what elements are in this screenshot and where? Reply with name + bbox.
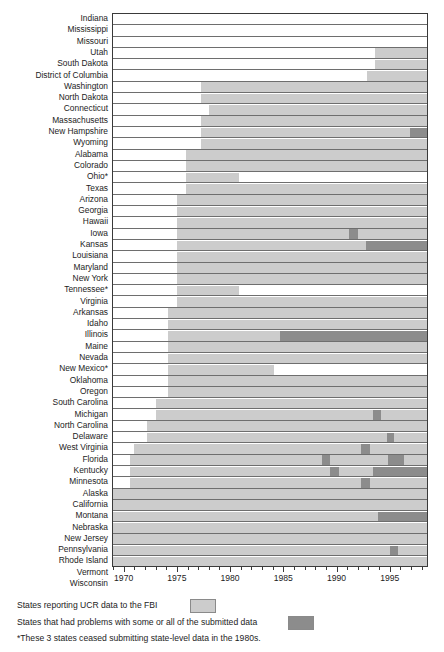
y-axis-label: Maryland xyxy=(0,262,108,273)
bar-segment-reporting xyxy=(177,241,366,251)
y-axis-label: Connecticut xyxy=(0,103,108,114)
x-tick-minor xyxy=(209,567,210,570)
bar-segment-reporting xyxy=(177,229,349,239)
x-tick-minor xyxy=(156,567,157,570)
y-axis-label: Washington xyxy=(0,81,108,92)
chart-row xyxy=(113,25,427,36)
x-tick-minor xyxy=(368,567,369,570)
y-axis-label: Georgia xyxy=(0,205,108,216)
y-axis-label: Minnesota xyxy=(0,476,108,487)
bar-segment-reporting xyxy=(370,478,427,488)
y-axis-label: Florida xyxy=(0,454,108,465)
bar-segment-reporting xyxy=(147,421,427,431)
bar-segment-problem xyxy=(373,467,427,477)
bar-segment-reporting xyxy=(404,455,427,465)
x-tick-minor xyxy=(273,567,274,570)
y-axis-label: Oklahoma xyxy=(0,375,108,386)
chart-row xyxy=(113,308,427,319)
chart-row xyxy=(113,353,427,364)
y-axis-label: West Virginia xyxy=(0,442,108,453)
x-tick-minor xyxy=(305,567,306,570)
chart-row xyxy=(113,466,427,477)
legend-swatch-dark xyxy=(288,616,314,630)
bar-segment-reporting xyxy=(177,263,427,273)
bar-segment-problem xyxy=(366,241,427,251)
y-axis-label: Pennsylvania xyxy=(0,544,108,555)
bar-segment-reporting xyxy=(113,557,427,566)
y-axis-label: Idaho xyxy=(0,318,108,329)
x-tick-minor xyxy=(166,567,167,570)
bar-segment-reporting xyxy=(134,444,361,454)
bar-segment-reporting xyxy=(201,139,427,149)
chart-row xyxy=(113,229,427,240)
x-tick-minor xyxy=(262,567,263,570)
chart-row xyxy=(113,455,427,466)
chart-row xyxy=(113,387,427,398)
chart-row xyxy=(113,150,427,161)
chart-row xyxy=(113,410,427,421)
bar-segment-problem xyxy=(330,467,339,477)
bar-segment-reporting xyxy=(177,252,427,262)
y-axis-label: Massachusetts xyxy=(0,115,108,126)
x-tick-major xyxy=(337,567,338,572)
bar-segment-reporting xyxy=(186,161,427,171)
chart-row xyxy=(113,184,427,195)
bar-segment-reporting xyxy=(177,286,239,296)
y-axis-label: New York xyxy=(0,273,108,284)
y-axis-label: Louisiana xyxy=(0,250,108,261)
bar-segment-reporting xyxy=(358,229,427,239)
x-tick-minor xyxy=(358,567,359,570)
chart-row xyxy=(113,534,427,545)
bar-segment-reporting xyxy=(113,512,378,522)
chart-row xyxy=(113,297,427,308)
bar-segment-reporting xyxy=(113,534,427,544)
bar-segment-reporting xyxy=(168,320,427,330)
y-axis-label: Vermont xyxy=(0,567,108,578)
bar-segment-reporting xyxy=(186,150,427,160)
x-tick-minor xyxy=(411,567,412,570)
y-axis-label: South Dakota xyxy=(0,58,108,69)
bar-segment-reporting xyxy=(113,500,427,510)
y-axis-label: Texas xyxy=(0,183,108,194)
x-tick-minor xyxy=(326,567,327,570)
bar-segment-problem xyxy=(280,331,427,341)
bar-segment-problem xyxy=(387,433,394,443)
x-tick-major xyxy=(390,567,391,572)
chart-row xyxy=(113,127,427,138)
chart-row xyxy=(113,14,427,25)
bar-segment-problem xyxy=(373,410,382,420)
bar-segment-reporting xyxy=(168,342,427,352)
y-axis-label: Virginia xyxy=(0,296,108,307)
chart-row xyxy=(113,432,427,443)
bar-segment-reporting xyxy=(177,218,427,228)
bar-segment-reporting xyxy=(168,308,427,318)
y-axis-label: New Jersey xyxy=(0,533,108,544)
x-tick-minor xyxy=(241,567,242,570)
bar-segment-reporting xyxy=(168,365,273,375)
y-axis-label: Mississippi xyxy=(0,24,108,35)
bar-segment-problem xyxy=(388,455,404,465)
legend-swatch-light xyxy=(190,599,216,613)
chart-row xyxy=(113,93,427,104)
x-tick-minor xyxy=(188,567,189,570)
bar-segment-problem xyxy=(378,512,427,522)
chart-row xyxy=(113,421,427,432)
legend-label-dark: States that had problems with some or al… xyxy=(17,617,257,627)
bar-segment-reporting xyxy=(201,94,427,104)
x-tick-label: 1985 xyxy=(274,573,293,583)
chart-plot-area xyxy=(113,14,427,566)
bar-segment-problem xyxy=(361,444,370,454)
bar-segment-reporting xyxy=(130,478,361,488)
y-axis-label: Michigan xyxy=(0,409,108,420)
bar-segment-reporting xyxy=(168,387,427,397)
y-axis-label: Maine xyxy=(0,341,108,352)
chart-row xyxy=(113,48,427,59)
y-axis-label: South Carolina xyxy=(0,397,108,408)
bar-segment-reporting xyxy=(177,195,427,205)
y-axis-label: Arizona xyxy=(0,194,108,205)
chart-row xyxy=(113,59,427,70)
chart-page: IndianaMississippiMissouriUtahSouth Dako… xyxy=(0,0,444,652)
y-axis-label: Utah xyxy=(0,47,108,58)
y-axis-label: Alabama xyxy=(0,149,108,160)
bar-segment-reporting xyxy=(209,105,427,115)
